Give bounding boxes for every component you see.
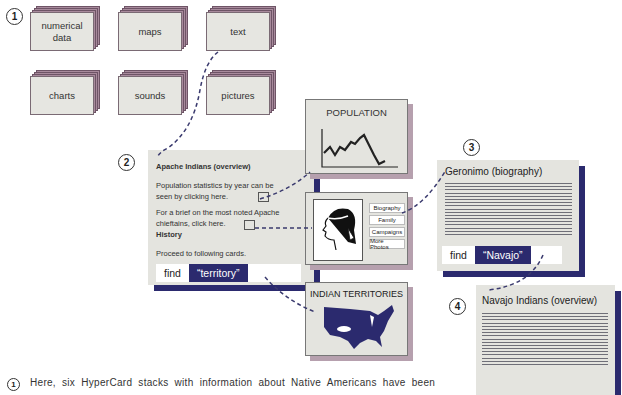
stack-pictures[interactable]: pictures (206, 70, 276, 114)
step-marker-1: 1 (6, 8, 23, 25)
find-query[interactable]: “territory” (189, 264, 248, 282)
find-bar[interactable]: find “Navajo” (442, 246, 562, 264)
geronimo-title: Geronimo (biography) (445, 166, 542, 177)
campaigns-button[interactable]: Campaigns (369, 227, 405, 237)
caption-text: Here, six HyperCard stacks with informat… (30, 377, 410, 388)
population-card[interactable]: POPULATION (305, 99, 408, 174)
navajo-card: Navajo Indians (overview) (476, 285, 615, 395)
population-chart-icon (320, 127, 400, 169)
step-marker-4: 4 (449, 298, 466, 315)
stack-label: numerical data (30, 12, 94, 51)
stack-label: sounds (118, 76, 182, 115)
family-button[interactable]: Family (369, 215, 405, 225)
overview-text-lines (482, 313, 608, 367)
find-label: find (442, 249, 475, 261)
portrait-card: Biography Family Campaigns More Photos (305, 192, 408, 265)
find-query[interactable]: “Navajo” (475, 246, 531, 264)
chieftains-link-text: For a brief on the most noted Apache chi… (156, 208, 281, 230)
find-label: find (156, 267, 189, 279)
caption-marker: 1 (7, 378, 20, 391)
portrait-image (313, 199, 363, 261)
territories-title: INDIAN TERRITORIES (306, 289, 407, 299)
stack-maps[interactable]: maps (118, 6, 188, 50)
more-photos-button[interactable]: More Photos (369, 239, 405, 249)
population-link-button[interactable] (258, 192, 269, 202)
step-marker-3: 3 (463, 139, 480, 156)
population-title: POPULATION (306, 107, 407, 118)
stack-label: pictures (206, 76, 270, 115)
stack-sounds[interactable]: sounds (118, 70, 188, 114)
geronimo-card: Geronimo (biography) find “Navajo” (437, 160, 579, 271)
step-marker-2: 2 (118, 154, 135, 171)
chieftain-portrait-icon (314, 200, 362, 260)
stack-label: text (206, 12, 270, 51)
biography-button[interactable]: Biography (369, 203, 405, 213)
find-bar[interactable]: find “territory” (156, 264, 301, 282)
chieftains-link-button[interactable] (244, 220, 255, 230)
biography-text-lines (445, 183, 572, 237)
history-heading: History (156, 230, 182, 241)
stack-label: maps (118, 12, 182, 51)
proceed-text: Proceed to following cards. (156, 249, 246, 260)
apache-card-title: Apache Indians (overview) (156, 162, 251, 173)
apache-card: Apache Indians (overview) Population sta… (148, 150, 314, 285)
us-map-icon (320, 303, 400, 351)
stack-charts[interactable]: charts (30, 70, 100, 114)
stack-text[interactable]: text (206, 6, 276, 50)
navajo-title: Navajo Indians (overview) (482, 295, 597, 306)
stack-label: charts (30, 76, 94, 115)
stack-numerical-data[interactable]: numerical data (30, 6, 100, 50)
territories-card[interactable]: INDIAN TERRITORIES (305, 282, 408, 356)
